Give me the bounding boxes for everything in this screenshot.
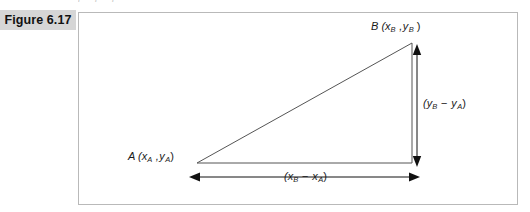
dx-prefix: (x xyxy=(284,170,293,182)
point-b-name: B (x xyxy=(371,20,391,32)
point-a-close: ) xyxy=(170,150,174,162)
horizontal-arrowhead-left xyxy=(189,173,200,182)
right-triangle-shape xyxy=(197,43,412,163)
vertical-arrowhead-bottom xyxy=(413,156,421,167)
point-a-mid: ,y xyxy=(152,150,165,162)
vertical-arrowhead-top xyxy=(413,44,421,55)
horizontal-arrowhead-right xyxy=(409,173,420,182)
dx-operator: − x xyxy=(298,170,318,182)
point-b-label: B (xB ,yB ) xyxy=(371,20,420,34)
point-a-name: A (x xyxy=(128,150,147,162)
dx-suffix: ) xyxy=(323,170,327,182)
dy-operator: − y xyxy=(437,97,457,109)
point-b-mid: ,y xyxy=(396,20,409,32)
vertical-dimension-label: (yB − yA) xyxy=(423,97,466,111)
dy-prefix: (y xyxy=(423,97,432,109)
dy-suffix: ) xyxy=(462,97,466,109)
point-a-label: A (xA ,yA) xyxy=(128,150,174,164)
horizontal-dimension-label: (xB − xA) xyxy=(284,170,327,184)
point-b-close: ) xyxy=(414,20,421,32)
